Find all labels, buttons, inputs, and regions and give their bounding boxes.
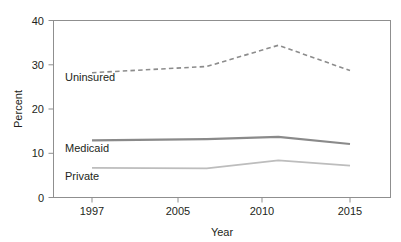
series-label-uninsured: Uninsured: [65, 71, 115, 83]
y-tick-label-30: 30: [32, 59, 44, 71]
line-chart: 40 30 20 10 0 1997 2005 2010 2015 Percen…: [0, 0, 401, 242]
series-label-private: Private: [65, 170, 99, 182]
y-tick-label-10: 10: [32, 147, 44, 159]
y-tick-label-40: 40: [32, 15, 44, 27]
y-tick-label-20: 20: [32, 103, 44, 115]
x-axis-title: Year: [211, 226, 234, 238]
y-tick-label-0: 0: [38, 192, 44, 204]
x-tick-label-2015: 2015: [338, 205, 362, 217]
x-tick-label-2005: 2005: [166, 205, 190, 217]
x-tick-label-1997: 1997: [80, 205, 104, 217]
x-tick-label-2010: 2010: [250, 205, 274, 217]
chart-container: 40 30 20 10 0 1997 2005 2010 2015 Percen…: [0, 0, 401, 242]
y-axis-title: Percent: [12, 90, 24, 128]
series-label-medicaid: Medicaid: [65, 142, 109, 154]
